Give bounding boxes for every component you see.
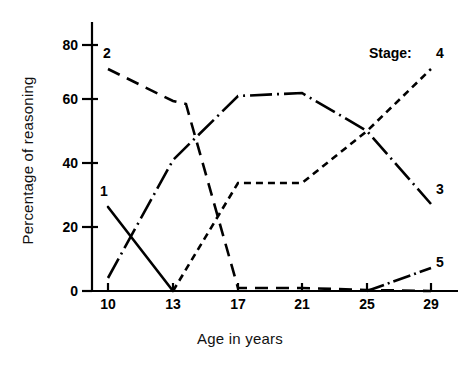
series-line-5 xyxy=(367,268,431,291)
series-label-1: 1 xyxy=(100,183,108,199)
y-axis-ticks xyxy=(82,45,98,291)
x-tick-label-25: 25 xyxy=(350,296,384,312)
series-label-5: 5 xyxy=(436,254,444,270)
y-tick-label-0: 0 xyxy=(44,283,78,299)
x-tick-label-13: 13 xyxy=(156,296,190,312)
y-tick-label-80: 80 xyxy=(44,37,78,53)
series-line-3 xyxy=(108,93,431,278)
series-label-4: 4 xyxy=(436,45,444,61)
y-tick-label-20: 20 xyxy=(44,219,78,235)
legend-caption: Stage: xyxy=(369,45,412,61)
chart-figure: Percentage of reasoning Age in years 0 2… xyxy=(0,0,476,368)
series-label-2: 2 xyxy=(103,45,111,61)
x-tick-label-17: 17 xyxy=(221,296,255,312)
series-line-1 xyxy=(108,207,173,291)
x-tick-label-29: 29 xyxy=(414,296,448,312)
x-axis-title: Age in years xyxy=(150,330,330,347)
y-tick-label-40: 40 xyxy=(44,155,78,171)
x-tick-label-21: 21 xyxy=(285,296,319,312)
y-tick-label-60: 60 xyxy=(44,91,78,107)
series-line-2 xyxy=(108,69,431,291)
y-axis-title: Percentage of reasoning xyxy=(19,46,36,276)
series-line-4 xyxy=(173,69,431,291)
x-tick-label-10: 10 xyxy=(91,296,125,312)
series-label-3: 3 xyxy=(436,181,444,197)
